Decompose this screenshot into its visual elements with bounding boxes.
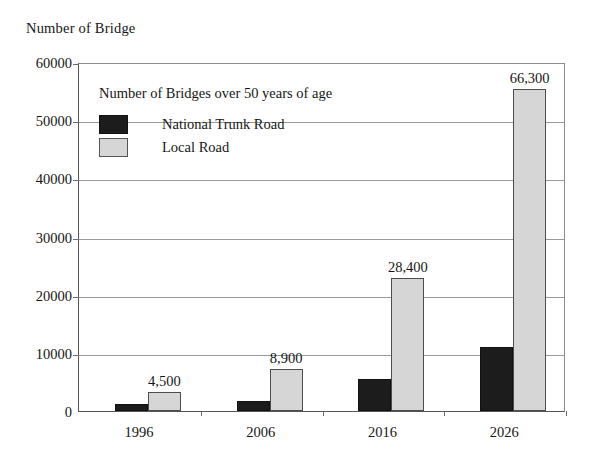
y-axis-tick-label: 10000: [2, 345, 72, 362]
legend-item-national-trunk-road: National Trunk Road: [99, 113, 379, 136]
y-axis-tick-mark: [73, 122, 79, 123]
bar-local-road-1996: [148, 392, 181, 411]
x-axis-tick-label: 2016: [368, 424, 397, 441]
gray-square-icon: [99, 138, 128, 157]
bar-chart-figure: Number of Bridge 01000020000300004000050…: [0, 0, 593, 466]
bar-local-road-2006: [270, 369, 303, 411]
y-axis-tick-mark: [73, 180, 79, 181]
value-label-2026: 66,300: [510, 70, 550, 87]
plot-area: 4,5008,90028,40066,300 Number of Bridges…: [78, 63, 565, 412]
y-axis-tick-label: 40000: [2, 171, 72, 188]
y-axis-tick-mark: [73, 297, 79, 298]
x-axis-tick-label: 1996: [124, 424, 153, 441]
y-axis-tick-label: 0: [2, 404, 72, 421]
y-axis-tick-mark: [73, 355, 79, 356]
x-axis-tick-label: 2026: [490, 424, 519, 441]
x-axis-tick-label: 2006: [246, 424, 275, 441]
bar-local-road-2026: [513, 89, 546, 411]
y-axis-tick-mark: [73, 64, 79, 65]
x-axis-tick-mark: [566, 411, 567, 416]
x-axis-tick-labels: 1996200620162026: [78, 424, 565, 452]
legend-item-label: National Trunk Road: [162, 116, 284, 133]
bar-local-road-2016: [391, 278, 424, 411]
bar-national-trunk-road-2016: [358, 379, 391, 411]
legend: Number of Bridges over 50 years of age N…: [99, 85, 379, 159]
bar-national-trunk-road-2026: [480, 347, 513, 411]
gridline: [79, 180, 564, 181]
y-axis-tick-label: 20000: [2, 287, 72, 304]
gridline: [79, 239, 564, 240]
y-axis-tick-label: 60000: [2, 55, 72, 72]
x-axis-tick-mark: [201, 411, 202, 416]
y-axis-tick-label: 30000: [2, 229, 72, 246]
y-axis-tick-label: 50000: [2, 113, 72, 130]
value-label-2006: 8,900: [270, 350, 303, 367]
gridline: [79, 297, 564, 298]
y-axis-tick-labels: 0100002000030000400005000060000: [0, 63, 72, 412]
y-axis-tick-mark: [73, 239, 79, 240]
value-label-2016: 28,400: [388, 259, 428, 276]
y-axis-title: Number of Bridge: [26, 20, 136, 37]
bar-national-trunk-road-2006: [237, 401, 270, 411]
x-axis-tick-mark: [444, 411, 445, 416]
bar-national-trunk-road-1996: [115, 404, 148, 411]
legend-item-label: Local Road: [162, 139, 229, 156]
legend-item-local-road: Local Road: [99, 136, 379, 159]
value-label-1996: 4,500: [148, 373, 181, 390]
black-square-icon: [99, 115, 128, 134]
x-axis-tick-mark: [323, 411, 324, 416]
legend-title: Number of Bridges over 50 years of age: [99, 85, 379, 102]
